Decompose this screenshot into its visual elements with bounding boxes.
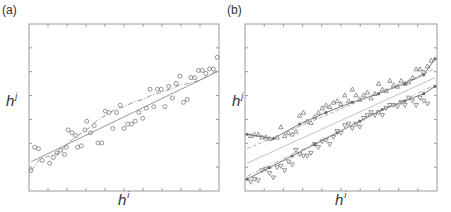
data-marks: [245, 57, 436, 184]
data-point: [133, 119, 137, 123]
data-point: [174, 82, 178, 86]
data-point: [85, 119, 89, 123]
data-point: [178, 74, 182, 78]
data-point: [36, 147, 40, 151]
data-point: [414, 103, 418, 107]
data-point: [290, 163, 294, 167]
data-point: [335, 99, 339, 103]
data-point: [182, 100, 186, 104]
data-point: [51, 155, 55, 159]
plot-frame: [245, 24, 437, 191]
data-point: [425, 102, 429, 106]
data-point: [141, 116, 145, 120]
data-point: [92, 124, 96, 128]
path-point: [291, 154, 294, 157]
data-point: [62, 153, 66, 157]
data-point: [294, 129, 298, 133]
data-point: [152, 105, 156, 109]
path-point: [324, 111, 327, 114]
data-marks: [29, 55, 219, 172]
data-point: [267, 172, 271, 176]
series-upper-fit: [247, 69, 435, 149]
data-point: [328, 105, 332, 109]
data-point: [346, 99, 350, 103]
data-point: [282, 169, 286, 173]
path-point: [268, 166, 271, 169]
data-point: [48, 161, 52, 165]
axis-ticks: [29, 24, 219, 191]
data-point: [376, 81, 380, 85]
data-point: [316, 110, 320, 114]
data-point: [301, 110, 305, 114]
data-point: [294, 148, 298, 152]
series-fit: [31, 72, 217, 162]
path-point: [298, 123, 301, 126]
x-axis-label: hi: [335, 190, 347, 208]
y-axis-label: hj: [6, 91, 18, 109]
series-mid-fit: [247, 78, 435, 164]
data-point: [358, 125, 362, 129]
y-axis-label: hj: [232, 91, 244, 109]
data-point: [346, 122, 350, 126]
data-point: [79, 144, 83, 148]
data-point: [418, 67, 422, 71]
data-point: [204, 71, 208, 75]
data-point: [249, 180, 253, 184]
path-point: [433, 57, 436, 60]
path-point: [422, 92, 425, 95]
data-point: [115, 111, 119, 115]
data-point: [137, 111, 141, 115]
data-point: [380, 87, 384, 91]
panel-a: (a) hi hj: [2, 3, 219, 208]
data-point: [279, 164, 283, 168]
data-point: [305, 154, 309, 158]
axis-ticks: [245, 24, 437, 191]
data-point: [350, 87, 354, 91]
data-point: [256, 179, 260, 183]
data-point: [279, 125, 283, 129]
panel-label: (b): [227, 3, 242, 17]
data-point: [66, 128, 70, 132]
data-point: [148, 87, 152, 91]
panel-label: (a): [2, 3, 17, 17]
data-point: [167, 84, 171, 88]
data-point: [275, 166, 279, 170]
data-point: [163, 105, 167, 109]
data-point: [170, 96, 174, 100]
data-point: [185, 97, 189, 101]
data-point: [403, 103, 407, 107]
data-point: [343, 93, 347, 97]
data-point: [215, 55, 219, 59]
data-point: [40, 158, 44, 162]
data-point: [59, 148, 63, 152]
data-point: [122, 126, 126, 130]
data-point: [410, 99, 414, 103]
data-point: [380, 114, 384, 118]
data-point: [354, 93, 358, 97]
series-lower-fit: [247, 85, 435, 176]
x-axis-label: hi: [118, 190, 130, 208]
plot-frame: [29, 24, 219, 191]
path-point: [245, 133, 248, 136]
data-point: [350, 127, 354, 131]
data-point: [271, 176, 275, 180]
data-point: [324, 103, 328, 107]
panel-b: (b) hi hj: [227, 3, 437, 208]
data-point: [316, 146, 320, 150]
data-point: [365, 90, 369, 94]
path-point: [272, 137, 275, 140]
data-point: [388, 78, 392, 82]
path-point: [245, 178, 248, 181]
data-point: [111, 126, 115, 130]
data-point: [328, 143, 332, 147]
data-point: [343, 124, 347, 128]
data-point: [70, 131, 74, 135]
data-point: [399, 78, 403, 82]
series-lower-path: [247, 86, 435, 179]
data-point: [118, 103, 122, 107]
data-point: [395, 105, 399, 109]
figure: (a) hi hj (b) hi hj: [0, 0, 451, 212]
